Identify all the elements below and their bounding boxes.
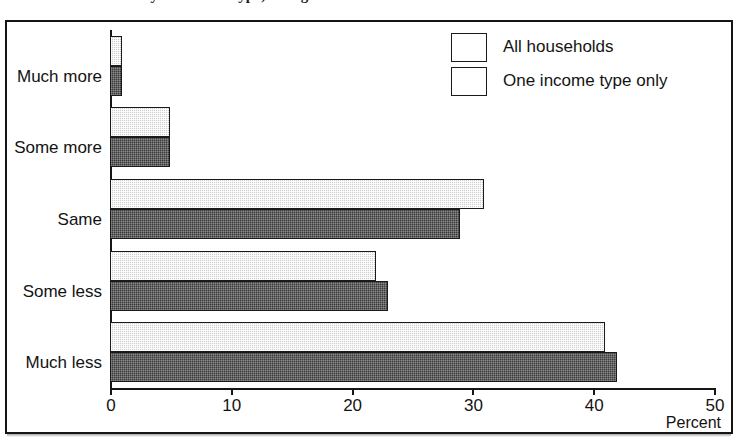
x-tick-40 — [593, 388, 595, 395]
bar-some-more-one-income-type-only — [110, 137, 170, 167]
y-axis-category-labels: Much more Some more Same Some less Much … — [7, 42, 110, 400]
page-top-title-sliver: Households: Income by household type, ch… — [0, 0, 741, 16]
y-label-same: Same — [58, 210, 102, 230]
bar-much-less-all-households — [110, 322, 605, 352]
bar-same-one-income-type-only — [110, 209, 460, 239]
x-axis-title: Percent — [666, 414, 721, 432]
x-tick-50 — [714, 388, 716, 395]
plot-area — [110, 30, 714, 388]
x-tick-0 — [110, 388, 112, 395]
y-label-some-less: Some less — [23, 282, 102, 302]
y-label-much-more: Much more — [17, 67, 102, 87]
bar-same-all-households — [110, 179, 484, 209]
x-tick-20 — [352, 388, 354, 395]
y-label-much-less: Much less — [25, 353, 102, 373]
x-tick-30 — [472, 388, 474, 395]
bar-much-more-one-income-type-only — [110, 66, 122, 96]
x-tick-label-40: 40 — [585, 396, 604, 416]
x-tick-label-10: 10 — [222, 396, 241, 416]
x-tick-label-50: 50 — [706, 396, 725, 416]
bar-some-less-one-income-type-only — [110, 281, 388, 311]
x-tick-label-30: 30 — [464, 396, 483, 416]
bar-some-less-all-households — [110, 251, 376, 281]
cut-off-page-title: Households: Income by household type, ch… — [4, 0, 315, 4]
bar-some-more-all-households — [110, 107, 170, 137]
chart-frame: All households One income type only Much… — [5, 20, 733, 434]
x-tick-label-0: 0 — [106, 396, 115, 416]
x-tick-label-20: 20 — [343, 396, 362, 416]
y-label-some-more: Some more — [14, 138, 102, 158]
bar-much-less-one-income-type-only — [110, 352, 617, 382]
bar-much-more-all-households — [110, 36, 122, 66]
x-tick-10 — [231, 388, 233, 395]
x-axis-line — [110, 388, 716, 390]
